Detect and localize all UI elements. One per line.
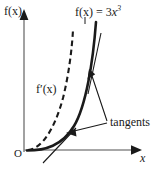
figure-background xyxy=(0,0,166,171)
x-axis-label: x xyxy=(140,152,145,164)
origin-label: O xyxy=(14,148,22,159)
y-axis-label: f(x) xyxy=(4,5,22,17)
function-equation-prefix: f(x) = 3 xyxy=(75,5,112,19)
function-equation-label: f(x) = 3x3 xyxy=(75,5,121,18)
derivative-label: f′(x) xyxy=(36,83,57,95)
tangents-label: tangents xyxy=(110,116,150,128)
derivative-label-arg: (x) xyxy=(43,82,57,96)
function-derivative-tangents-figure xyxy=(0,0,166,171)
function-equation-exponent: 3 xyxy=(117,4,121,13)
